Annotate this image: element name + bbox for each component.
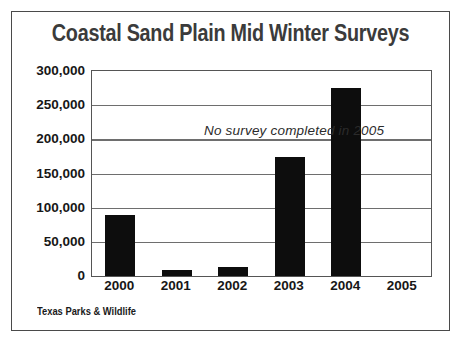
chart-title: Coastal Sand Plain Mid Winter Surveys [43,20,419,47]
gridline [92,174,431,175]
y-axis-tick-label: 0 [15,268,91,283]
gridline [92,208,431,209]
y-axis-tick-label: 150,000 [15,165,91,180]
x-axis-tick-label: 2002 [217,278,247,293]
chart-figure: Coastal Sand Plain Mid Winter Surveys 05… [11,11,450,331]
gridline [92,139,431,140]
footer-credit: Texas Parks & Wildlife [37,305,136,317]
bar-2004 [331,88,361,276]
y-axis: 050,000100,000150,000200,000250,000300,0… [12,70,91,275]
bar-2002 [218,267,248,276]
chart-annotation: No survey completed in 2005 [204,123,384,138]
y-axis-tick-label: 250,000 [15,97,91,112]
gridline [92,105,431,106]
y-axis-tick-label: 50,000 [15,233,91,248]
y-axis-tick-label: 300,000 [15,63,91,78]
x-axis-tick-label: 2001 [161,278,191,293]
x-axis-tick-label: 2000 [104,278,134,293]
bar-2000 [105,215,135,277]
y-axis-tick-label: 100,000 [15,199,91,214]
plot-area: No survey completed in 2005 [91,70,432,277]
x-axis-tick-label: 2005 [387,278,417,293]
y-axis-tick-label: 200,000 [15,131,91,146]
x-axis: 200020012002200320042005 [91,278,430,302]
bar-2001 [162,270,192,276]
x-axis-tick-label: 2004 [330,278,360,293]
bar-2003 [275,157,305,276]
gridline [92,242,431,243]
x-axis-tick-label: 2003 [274,278,304,293]
